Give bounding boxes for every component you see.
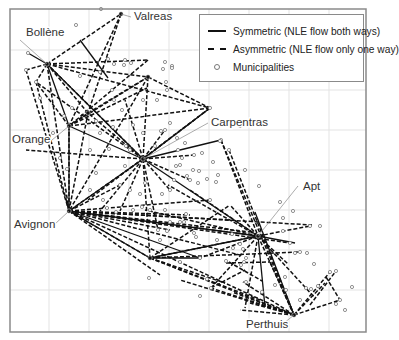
municipality-marker: [214, 180, 217, 183]
legend: Symmetric (NLE flow both ways) Asymmetri…: [199, 14, 364, 82]
hub-node-vaison: [146, 75, 150, 79]
municipality-marker: [180, 156, 183, 159]
municipality-marker: [165, 88, 168, 91]
municipality-marker: [70, 106, 73, 109]
municipality-marker: [260, 290, 263, 293]
municipality-marker: [65, 167, 68, 170]
municipality-marker: [175, 136, 178, 139]
municipality-marker: [111, 125, 114, 128]
municipality-marker: [239, 263, 242, 266]
municipality-marker: [334, 302, 337, 305]
municipality-marker: [198, 294, 201, 297]
municipality-marker: [281, 216, 284, 219]
municipality-marker: [58, 156, 61, 159]
label-orange: Orange: [12, 133, 50, 145]
dashed-line-icon: [208, 44, 226, 54]
municipality-marker: [94, 171, 97, 174]
municipality-marker: [231, 246, 234, 249]
municipality-marker: [194, 235, 197, 238]
municipality-marker: [174, 164, 177, 167]
legend-item-asymmetric: Asymmetric (NLE flow only one way): [208, 41, 399, 57]
municipality-marker: [147, 276, 150, 279]
municipality-marker: [88, 188, 91, 191]
municipality-marker: [309, 287, 312, 290]
municipality-marker: [129, 61, 132, 64]
solid-line-icon: [208, 26, 226, 36]
municipality-marker: [148, 208, 151, 211]
municipality-marker: [209, 286, 212, 289]
municipality-marker: [24, 68, 27, 71]
municipality-marker: [120, 108, 123, 111]
municipality-marker: [182, 220, 185, 223]
municipality-marker: [163, 60, 166, 63]
asymmetric-edge: [88, 14, 121, 113]
municipality-marker: [143, 181, 146, 184]
municipality-marker: [184, 212, 187, 215]
label-valreas: Valreas: [134, 10, 172, 22]
label-perthuis: Perthuis: [246, 318, 288, 330]
municipality-marker: [215, 238, 218, 241]
municipality-marker: [163, 208, 166, 211]
municipality-marker: [98, 70, 101, 73]
municipality-marker: [284, 288, 287, 291]
municipality-marker: [192, 231, 195, 234]
municipality-marker: [191, 168, 194, 171]
municipality-marker: [283, 275, 286, 278]
asymmetric-edge: [26, 64, 47, 70]
municipality-marker: [205, 277, 208, 280]
municipality-marker: [140, 205, 143, 208]
municipality-marker: [34, 80, 37, 83]
municipality-marker: [244, 280, 247, 283]
asymmetric-edge: [229, 262, 262, 281]
legend-item-symmetric: Symmetric (NLE flow both ways): [208, 23, 380, 39]
municipality-marker: [168, 220, 171, 223]
municipality-marker: [243, 168, 246, 171]
municipality-marker: [107, 147, 110, 150]
municipality-marker: [155, 98, 158, 101]
asymmetric-edge: [294, 300, 340, 315]
asymmetric-edge: [226, 262, 270, 263]
municipality-marker: [178, 260, 181, 263]
municipality-marker: [118, 183, 121, 186]
municipality-marker: [205, 177, 208, 180]
municipality-marker: [124, 144, 127, 147]
asymmetric-edge: [69, 200, 210, 211]
municipality-marker: [238, 242, 241, 245]
municipality-marker: [131, 123, 134, 126]
municipality-marker: [192, 153, 195, 156]
municipality-marker: [153, 144, 156, 147]
municipality-marker: [128, 188, 131, 191]
municipality-marker: [298, 250, 301, 253]
municipality-marker: [208, 106, 211, 109]
municipality-marker: [158, 238, 161, 241]
leader-line-bollene: [20, 40, 47, 64]
municipality-marker: [198, 256, 201, 259]
municipality-marker: [218, 139, 221, 142]
municipality-marker: [106, 57, 109, 60]
municipality-marker: [185, 174, 188, 177]
municipality-marker: [230, 232, 233, 235]
label-avignon: Avignon: [14, 218, 55, 230]
municipality-marker: [273, 283, 276, 286]
municipality-marker: [291, 209, 294, 212]
municipality-marker: [224, 259, 227, 262]
municipality-marker: [165, 229, 168, 232]
label-bollene: Bollène: [26, 26, 64, 38]
municipality-marker: [122, 63, 125, 66]
circle-marker-icon: [208, 62, 226, 72]
municipality-marker: [208, 198, 211, 201]
hub-node-pernes: [86, 111, 90, 115]
leader-line-avignon: [55, 211, 69, 224]
municipality-marker: [328, 270, 331, 273]
municipality-marker: [304, 286, 307, 289]
municipality-marker: [216, 173, 219, 176]
municipality-marker: [316, 284, 319, 287]
municipality-marker: [318, 224, 321, 227]
municipality-marker: [197, 169, 200, 172]
municipality-marker: [170, 66, 173, 69]
municipality-marker: [200, 151, 203, 154]
municipality-marker: [343, 308, 346, 311]
municipality-marker: [128, 148, 131, 151]
municipality-marker: [176, 148, 179, 151]
municipality-marker: [78, 74, 81, 77]
